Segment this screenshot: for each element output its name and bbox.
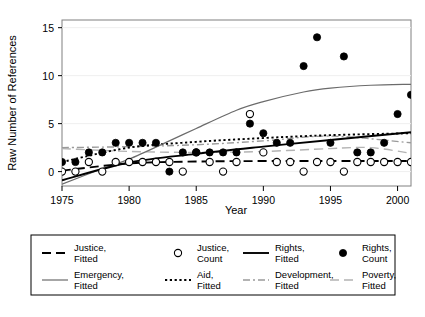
data-point-filled: [327, 139, 334, 146]
data-point-open: [152, 158, 159, 165]
data-point-filled: [233, 149, 240, 156]
x-tick-label: 1985: [185, 194, 209, 206]
legend: Justice,FittedJustice,CountRights,Fitted…: [31, 235, 396, 295]
data-point-filled: [340, 53, 347, 60]
legend-label-line1: Development,: [275, 269, 334, 280]
legend-label-line1: Justice,: [74, 242, 106, 253]
data-point-filled: [112, 139, 119, 146]
legend-label-line1: Rights,: [362, 242, 392, 253]
data-point-open: [72, 168, 79, 175]
data-point-open: [179, 168, 186, 175]
data-point-open: [85, 158, 92, 165]
data-point-open: [126, 158, 133, 165]
data-point-open: [354, 158, 361, 165]
x-tick-label: 2000: [386, 194, 410, 206]
legend-label-line1: Emergency,: [74, 269, 124, 280]
legend-label-line1: Poverty,: [362, 269, 396, 280]
data-point-open: [381, 158, 388, 165]
data-point-open: [327, 158, 334, 165]
data-point-open: [139, 158, 146, 165]
data-point-filled: [139, 139, 146, 146]
data-point-filled: [381, 139, 388, 146]
plot-panel: [58, 20, 414, 186]
data-point-open: [394, 158, 401, 165]
x-axis-title: Year: [225, 204, 248, 216]
data-point-filled: [152, 139, 159, 146]
data-point-filled: [85, 149, 92, 156]
data-point-filled: [99, 149, 106, 156]
legend-label-line2: Fitted: [275, 280, 299, 291]
y-axis-title: Raw Number of References: [6, 35, 18, 171]
legend-open-circle-icon: [174, 249, 181, 256]
data-point-filled: [193, 149, 200, 156]
legend-label-line1: Rights,: [275, 242, 305, 253]
data-point-open: [260, 149, 267, 156]
legend-filled-circle-icon: [339, 249, 346, 256]
data-point-open: [287, 158, 294, 165]
y-tick-label: 0: [48, 166, 54, 178]
x-tick-label: 1980: [117, 194, 141, 206]
data-point-open: [99, 168, 106, 175]
legend-label-line1: Justice,: [197, 242, 229, 253]
x-tick-label: 1975: [50, 194, 74, 206]
data-point-filled: [367, 149, 374, 156]
data-point-open: [166, 158, 173, 165]
references-scatter-chart: 051015 197519801985199019952000 Raw Numb…: [0, 0, 425, 317]
data-point-open: [300, 168, 307, 175]
legend-label-line2: Fitted: [197, 280, 221, 291]
legend-label-line2: Fitted: [74, 280, 98, 291]
data-point-open: [273, 158, 280, 165]
y-tick-label: 5: [48, 118, 54, 130]
y-tick-label: 15: [42, 22, 54, 34]
data-point-filled: [313, 34, 320, 41]
data-point-filled: [219, 149, 226, 156]
data-point-filled: [166, 168, 173, 175]
data-point-open: [313, 158, 320, 165]
data-point-filled: [273, 139, 280, 146]
data-point-filled: [394, 110, 401, 117]
legend-label-line2: Fitted: [362, 280, 386, 291]
legend-label-line2: Fitted: [74, 253, 98, 264]
y-tick-label: 10: [42, 70, 54, 82]
data-point-filled: [246, 120, 253, 127]
data-point-open: [112, 158, 119, 165]
x-tick-label: 1990: [252, 194, 276, 206]
data-point-open: [246, 110, 253, 117]
x-tick-label: 1995: [319, 194, 343, 206]
data-point-open: [206, 158, 213, 165]
data-point-filled: [179, 149, 186, 156]
data-point-filled: [72, 158, 79, 165]
data-point-open: [367, 158, 374, 165]
legend-label-line2: Fitted: [275, 253, 299, 264]
legend-label-line2: Count: [362, 253, 388, 264]
legend-label-line1: Aid,: [197, 269, 213, 280]
data-point-filled: [260, 130, 267, 137]
data-point-filled: [354, 149, 361, 156]
data-point-open: [233, 158, 240, 165]
data-point-filled: [206, 149, 213, 156]
data-point-filled: [287, 139, 294, 146]
data-point-filled: [126, 139, 133, 146]
chart-figure: 051015 197519801985199019952000 Raw Numb…: [0, 0, 425, 317]
legend-label-line2: Count: [197, 253, 223, 264]
data-point-open: [219, 168, 226, 175]
data-point-open: [340, 168, 347, 175]
data-point-filled: [300, 62, 307, 69]
